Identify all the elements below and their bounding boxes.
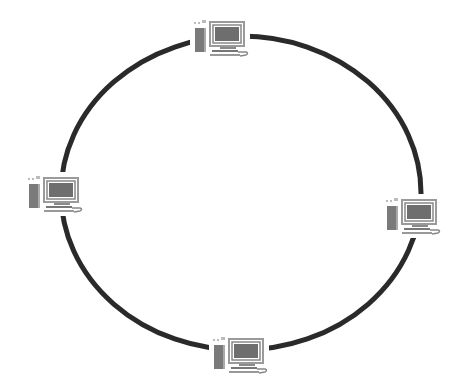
- computer-node-left: [24, 172, 84, 216]
- desktop-computer-icon: [382, 194, 442, 238]
- desktop-computer-icon: [190, 16, 250, 60]
- computer-node-top: [190, 16, 250, 60]
- computer-node-bottom: [209, 333, 269, 377]
- desktop-computer-icon: [209, 333, 269, 377]
- desktop-computer-icon: [24, 172, 84, 216]
- computer-node-right: [382, 194, 442, 238]
